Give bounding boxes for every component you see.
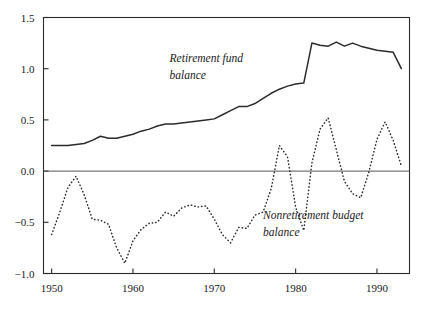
annotation-line: Retirement fund: [169, 52, 244, 65]
retirement-fund-label: Retirement fundbalance: [169, 52, 244, 81]
x-tick-label: 1950: [41, 282, 64, 294]
annotation-line: Nonretirement budget: [262, 209, 364, 222]
x-tick-label: 1970: [203, 282, 226, 294]
y-tick-label: 1.5: [21, 12, 35, 24]
x-axis-tick-labels: 19501960197019801990: [41, 282, 389, 294]
chart-container: −1.0−0.50.00.51.01.5 1950196019701980199…: [0, 0, 427, 314]
data-series-group: [52, 42, 402, 263]
y-axis-tick-marks: [44, 18, 49, 274]
x-tick-label: 1960: [122, 282, 145, 294]
y-tick-label: 0.5: [21, 114, 35, 126]
y-tick-label: −0.5: [15, 216, 35, 228]
nonretirement-budget-label: Nonretirement budgetbalance: [262, 209, 364, 238]
annotation-line: balance: [263, 226, 299, 238]
series-line-dotted: [52, 118, 402, 263]
y-axis-tick-labels: −1.0−0.50.00.51.01.5: [15, 12, 35, 280]
annotation-line: balance: [170, 69, 206, 81]
y-tick-label: −1.0: [15, 268, 35, 280]
x-tick-label: 1990: [366, 282, 389, 294]
x-tick-label: 1980: [285, 282, 308, 294]
x-axis-tick-marks: [52, 269, 377, 274]
y-tick-label: 1.0: [21, 63, 35, 75]
chart-canvas: −1.0−0.50.00.51.01.5 1950196019701980199…: [0, 0, 427, 314]
y-tick-label: 0.0: [21, 165, 35, 177]
